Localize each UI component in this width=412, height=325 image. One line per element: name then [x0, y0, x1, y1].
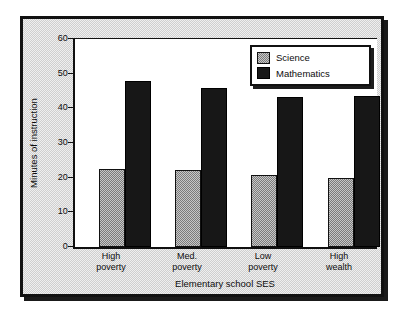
- x-label-line-2: poverty: [149, 262, 225, 273]
- bar-mathematics-high-poverty[interactable]: [125, 81, 151, 247]
- y-tick-label-40: 40: [58, 103, 68, 112]
- x-label-line-1: Med.: [149, 251, 225, 262]
- x-label-low-poverty: Low poverty: [225, 251, 301, 273]
- x-label-line-1: Low: [225, 251, 301, 262]
- bar-science-high-poverty[interactable]: [99, 169, 125, 247]
- y-tick-label-50: 50: [58, 68, 68, 77]
- y-tick-60: 60: [68, 38, 75, 39]
- y-tick-label-20: 20: [58, 172, 68, 181]
- bar-group-med-poverty: [151, 39, 227, 247]
- legend-item-science[interactable]: Science: [257, 50, 364, 65]
- x-axis-labels: High poverty Med. poverty Low poverty Hi…: [73, 251, 377, 273]
- bar-mathematics-med-poverty[interactable]: [201, 88, 227, 247]
- legend-item-mathematics[interactable]: Mathematics: [257, 66, 364, 81]
- y-tick-label-30: 30: [58, 138, 68, 147]
- legend-label-mathematics: Mathematics: [276, 68, 330, 79]
- y-tick-50: 50: [68, 73, 75, 74]
- bar-science-med-poverty[interactable]: [175, 170, 201, 247]
- y-tick-label-60: 60: [58, 34, 68, 43]
- x-axis-title: Elementary school SES: [73, 278, 377, 289]
- x-label-high-poverty: High poverty: [73, 251, 149, 273]
- x-label-line-2: poverty: [225, 262, 301, 273]
- bar-science-low-poverty[interactable]: [251, 175, 277, 247]
- y-tick-0: 0: [68, 246, 75, 247]
- x-label-line-1: High: [73, 251, 149, 262]
- x-label-line-2: poverty: [73, 262, 149, 273]
- y-tick-label-0: 0: [63, 242, 68, 251]
- y-tick-20: 20: [68, 177, 75, 178]
- legend-label-science: Science: [276, 52, 310, 63]
- chart-root: Minutes of instruction 60 50 40 30 20 10: [0, 0, 412, 325]
- x-label-line-2: wealth: [301, 262, 377, 273]
- y-axis-title: Minutes of instruction: [28, 98, 39, 188]
- y-tick-40: 40: [68, 107, 75, 108]
- bar-mathematics-high-wealth[interactable]: [354, 96, 380, 247]
- chart-panel: Minutes of instruction 60 50 40 30 20 10: [20, 16, 384, 297]
- x-label-med-poverty: Med. poverty: [149, 251, 225, 273]
- bar-group-high-poverty: [75, 39, 151, 247]
- x-label-high-wealth: High wealth: [301, 251, 377, 273]
- bar-science-high-wealth[interactable]: [328, 178, 354, 247]
- legend-swatch-science-icon: [257, 52, 270, 64]
- legend-swatch-mathematics-icon: [257, 67, 270, 79]
- bar-mathematics-low-poverty[interactable]: [277, 97, 303, 247]
- y-tick-10: 10: [68, 211, 75, 212]
- y-tick-label-10: 10: [58, 207, 68, 216]
- y-tick-30: 30: [68, 142, 75, 143]
- legend: Science Mathematics: [250, 45, 371, 86]
- x-label-line-1: High: [301, 251, 377, 262]
